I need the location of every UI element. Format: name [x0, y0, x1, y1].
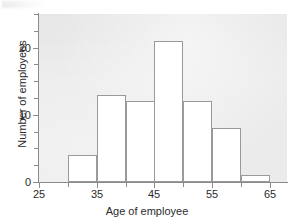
y-tick-minor: [34, 64, 38, 65]
x-tick-minor: [241, 183, 242, 187]
histogram-bar: [212, 128, 241, 182]
histogram-bar: [126, 101, 155, 182]
y-tick-label: 0: [25, 177, 31, 188]
histogram-bar: [154, 41, 183, 182]
x-axis-line: [38, 182, 288, 183]
y-axis-line: [38, 13, 39, 183]
x-tick-minor: [183, 183, 184, 187]
y-tick-major: [33, 48, 38, 49]
x-tick-label: 35: [91, 189, 103, 200]
y-tick-major: [33, 115, 38, 116]
x-tick-label: 25: [33, 189, 45, 200]
y-axis-title: Number of employees: [16, 14, 28, 174]
histogram-figure: 01020 2535455565 Age of employee Number …: [0, 0, 294, 220]
y-tick-minor: [34, 31, 38, 32]
y-tick-minor: [34, 14, 38, 15]
histogram-bar: [97, 95, 126, 182]
x-tick-label: 45: [148, 189, 160, 200]
y-tick-minor: [34, 132, 38, 133]
y-tick-minor: [34, 81, 38, 82]
y-tick-minor: [34, 165, 38, 166]
y-tick-minor: [34, 148, 38, 149]
histogram-bar: [68, 155, 97, 182]
x-axis-title: Age of employee: [0, 205, 294, 217]
x-tick-label: 55: [206, 189, 218, 200]
histogram-bar: [183, 101, 212, 182]
y-tick-major: [33, 182, 38, 183]
x-tick-label: 65: [264, 189, 276, 200]
histogram-bar: [241, 175, 270, 182]
y-tick-minor: [34, 98, 38, 99]
x-tick-minor: [126, 183, 127, 187]
x-tick-minor: [68, 183, 69, 187]
